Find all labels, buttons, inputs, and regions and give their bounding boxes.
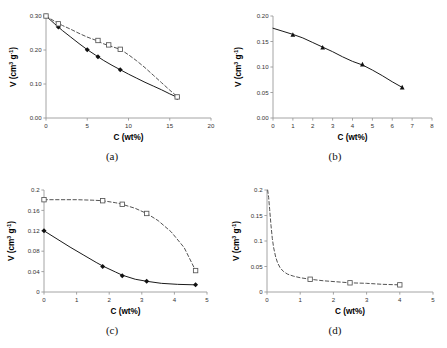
data-point-marker [308,277,312,281]
y-tick-label: 0.10 [257,63,269,70]
series-curve [268,190,400,285]
y-tick-label: 0.16 [28,207,40,214]
x-tick-label: 4 [173,296,177,303]
svg-text:V (cm3 g-1): V (cm3 g-1) [6,221,16,261]
data-point-marker [44,14,48,18]
x-tick-label: 15 [166,122,173,129]
series-curve [46,16,178,98]
y-tick-label: 0.08 [28,247,40,254]
x-tick-label: 0 [265,296,269,303]
x-tick-label: 7 [410,122,414,129]
y-tick-label: 0.2 [31,186,40,193]
panel-a: 0.000.100.200.3005101520C (wt%)V (cm3 g-… [0,2,224,162]
plot-a: 0.000.100.200.3005101520C (wt%)V (cm3 g-… [0,2,224,162]
y-tick-label: 0 [259,288,263,295]
x-tick-label: 2 [311,122,315,129]
series-curve [273,28,402,87]
x-tick-label: 20 [208,122,215,129]
x-tick-label: 4 [351,122,355,129]
y-axis-title: V (cm3 g-1) [8,47,18,87]
data-point-marker [144,211,148,215]
data-point-marker [96,38,100,42]
y-tick-label: 0.05 [251,263,263,270]
panel-c: 00.040.080.120.160.2012345C (wt%)V (cm3 … [0,176,224,336]
data-point-marker [42,197,46,201]
x-tick-label: 5 [205,296,209,303]
x-tick-label: 4 [398,296,402,303]
x-tick-label: 0 [42,296,46,303]
data-point-marker [193,282,198,287]
x-tick-label: 1 [291,122,295,129]
x-tick-label: 10 [125,122,132,129]
panel-c-caption: (c) [0,324,224,336]
data-point-marker [348,281,352,285]
y-tick-label: 0.1 [254,237,263,244]
data-point-marker [118,67,123,72]
data-point-marker [398,283,402,287]
x-tick-label: 5 [86,122,90,129]
x-axis-title: C (wt%) [110,307,140,316]
data-point-marker [144,279,149,284]
series-curve [44,231,196,285]
series-curve [46,16,178,97]
svg-text:V (cm3 g-1): V (cm3 g-1) [8,47,18,87]
x-tick-label: 3 [140,296,144,303]
data-point-marker [100,199,104,203]
x-tick-label: 6 [391,122,395,129]
y-tick-label: 0.20 [257,12,269,19]
data-point-marker [42,228,47,233]
data-point-marker [400,85,405,90]
x-axis-title: C (wt%) [335,307,365,316]
figure-container: 0.000.100.200.3005101520C (wt%)V (cm3 g-… [0,0,447,348]
y-tick-label: 0.15 [251,212,263,219]
data-point-marker [120,202,124,206]
y-tick-label: 0.15 [257,38,269,45]
svg-text:V (cm3 g-1): V (cm3 g-1) [233,47,243,87]
y-tick-label: 0.00 [30,114,42,121]
data-point-marker [107,43,111,47]
panel-b: 0.000.050.100.150.20012345678C (wt%)V (c… [223,2,447,162]
y-tick-label: 0.00 [257,114,269,121]
data-point-marker [193,268,197,272]
y-axis-title: V (cm3 g-1) [6,221,16,261]
panel-b-caption: (b) [223,150,447,162]
x-axis-title: C (wt%) [337,133,367,142]
panel-d-caption: (d) [223,324,447,336]
x-tick-label: 0 [44,122,48,129]
y-tick-label: 0 [36,288,40,295]
x-tick-label: 3 [331,122,335,129]
series-curve [44,200,196,271]
data-point-marker [118,47,122,51]
data-point-marker [320,45,325,50]
data-point-marker [175,95,179,99]
x-axis-title: C (wt%) [113,133,143,142]
data-point-marker [56,22,60,26]
x-tick-label: 5 [431,296,435,303]
y-tick-label: 0.04 [28,268,40,275]
x-tick-label: 1 [75,296,79,303]
plot-c: 00.040.080.120.160.2012345C (wt%)V (cm3 … [0,176,224,336]
x-tick-label: 1 [299,296,303,303]
x-tick-label: 2 [108,296,112,303]
plot-b: 0.000.050.100.150.20012345678C (wt%)V (c… [223,2,447,162]
y-tick-label: 0.20 [30,46,42,53]
y-tick-label: 0.2 [254,186,263,193]
y-tick-label: 0.10 [30,80,42,87]
y-tick-label: 0.30 [30,12,42,19]
y-tick-label: 0.12 [28,227,40,234]
x-tick-label: 0 [271,122,275,129]
svg-text:V (cm3 g-1): V (cm3 g-1) [231,221,241,261]
panel-a-caption: (a) [0,150,224,162]
x-tick-label: 2 [332,296,336,303]
y-tick-label: 0.05 [257,89,269,96]
x-tick-label: 8 [430,122,434,129]
y-axis-title: V (cm3 g-1) [231,221,241,261]
y-axis-title: V (cm3 g-1) [233,47,243,87]
plot-d: 00.050.10.150.2012345C (wt%)V (cm3 g-1) [223,176,447,336]
panel-d: 00.050.10.150.2012345C (wt%)V (cm3 g-1) [223,176,447,336]
x-tick-label: 3 [365,296,369,303]
x-tick-label: 5 [371,122,375,129]
